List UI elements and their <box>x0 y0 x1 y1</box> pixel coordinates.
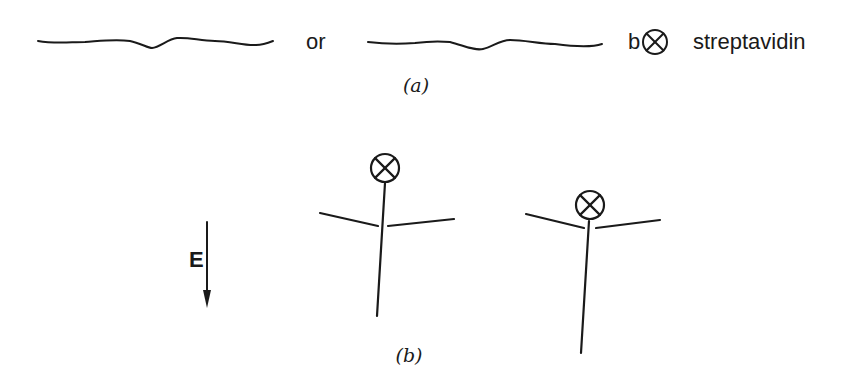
right-arm <box>388 219 454 226</box>
streptavidin-circle-x-icon <box>371 154 399 182</box>
molecule-2 <box>526 191 660 353</box>
or-label: or <box>306 29 326 54</box>
dna-strand-plain <box>38 38 273 48</box>
right-arm <box>596 220 660 228</box>
panel-b: E (b) <box>189 154 660 366</box>
panel-a: or b streptavidin (a) <box>38 29 806 96</box>
electric-field-label: E <box>189 247 204 272</box>
panel-a-caption: (a) <box>403 74 429 96</box>
stem <box>581 221 589 353</box>
streptavidin-circle-x-icon <box>643 30 667 54</box>
electric-field-arrow-icon <box>203 222 211 308</box>
molecule-1 <box>320 154 454 316</box>
panel-b-caption: (b) <box>396 344 423 366</box>
figure-canvas: or b streptavidin (a) E <box>0 0 850 388</box>
left-arm <box>526 214 584 228</box>
dna-strand-biotinylated <box>368 40 602 49</box>
streptavidin-circle-x-icon <box>576 191 604 219</box>
biotin-label: b <box>628 29 640 54</box>
left-arm <box>320 213 378 226</box>
stem <box>377 183 385 316</box>
streptavidin-label: streptavidin <box>693 29 806 54</box>
